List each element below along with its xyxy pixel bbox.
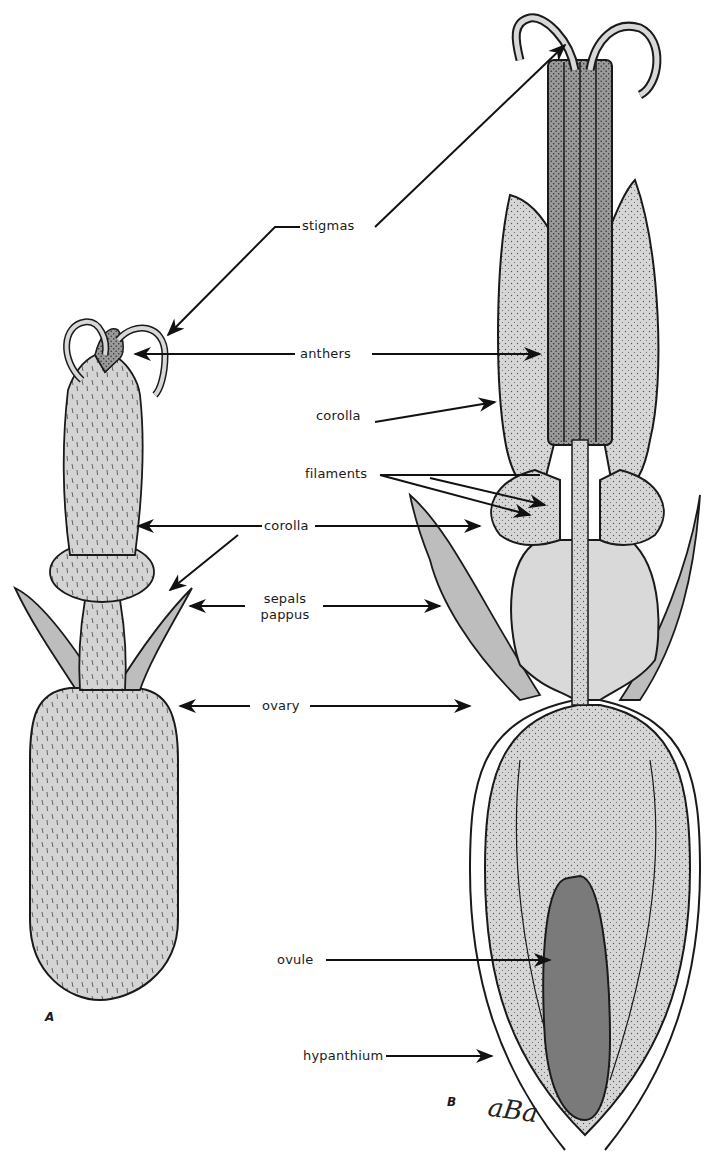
corolla-upper-a	[64, 355, 143, 555]
label-anthers: anthers	[300, 346, 351, 361]
flower-diagram	[0, 0, 720, 1167]
panel-label-b: B	[447, 1095, 456, 1109]
label-corolla-middle: corolla	[264, 518, 309, 533]
label-ovule: ovule	[277, 952, 314, 967]
label-hypanthium: hypanthium	[303, 1048, 383, 1063]
ovary-a	[30, 688, 178, 1000]
style-b	[572, 440, 588, 705]
label-ovary: ovary	[262, 698, 300, 713]
flower-a-external	[15, 322, 192, 1000]
label-stigmas: stigmas	[302, 218, 355, 233]
corolla-tube-a	[79, 600, 126, 690]
label-corolla-upper: corolla	[316, 408, 361, 423]
ovule-b	[543, 876, 610, 1120]
flower-b-section	[410, 18, 700, 1150]
panel-label-a: A	[45, 1010, 54, 1024]
label-sepals: sepals	[252, 591, 318, 606]
label-pappus: pappus	[252, 607, 318, 622]
label-filaments: filaments	[305, 466, 367, 481]
